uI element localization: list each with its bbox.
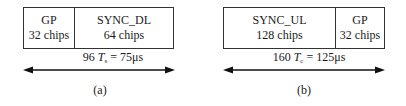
segment-gp-b: GP 32 chips — [335, 8, 384, 48]
double-arrow-icon — [23, 64, 175, 76]
caption-a: (a) — [88, 83, 112, 98]
segment-sync-ul: SYNC_UL 128 chips — [224, 8, 335, 48]
segment-sync-dl: SYNC_DL 64 chips — [74, 8, 173, 48]
segment-label: GP — [41, 13, 56, 28]
timeslot-b-frame: SYNC_UL 128 chips GP 32 chips — [223, 7, 385, 49]
duration-label-a: 96 Ts = 75μs — [73, 50, 153, 65]
segment-chips: 32 chips — [340, 28, 380, 43]
segment-chips: 32 chips — [29, 28, 69, 43]
duration-label-b: 160 Tc = 125μs — [264, 50, 354, 65]
segment-label: SYNC_DL — [97, 13, 151, 28]
double-arrow-icon — [223, 64, 385, 76]
segment-chips: 128 chips — [256, 28, 302, 43]
segment-chips: 64 chips — [104, 28, 144, 43]
segment-label: SYNC_UL — [252, 13, 306, 28]
caption-b: (b) — [292, 83, 316, 98]
segment-label: GP — [352, 13, 367, 28]
segment-gp-a: GP 32 chips — [24, 8, 74, 48]
timeslot-a-frame: GP 32 chips SYNC_DL 64 chips — [23, 7, 174, 49]
